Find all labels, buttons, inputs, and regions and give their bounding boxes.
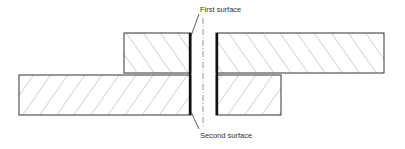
second-surface-leader — [191, 112, 199, 129]
second-surface-label: Second surface — [200, 131, 252, 140]
first-surface-leader — [191, 14, 199, 36]
lower-right-block — [216, 75, 281, 115]
first-surface-label: First surface — [200, 5, 241, 14]
joint-diagram: First surface Second surface — [0, 0, 405, 149]
lower-left-block — [19, 75, 191, 115]
upper-right-block — [216, 33, 384, 73]
upper-left-block — [124, 33, 191, 73]
